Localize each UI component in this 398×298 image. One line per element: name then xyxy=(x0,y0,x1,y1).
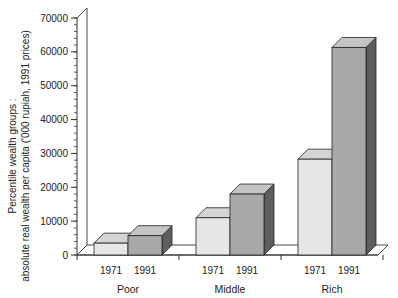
category-label: Rich xyxy=(321,283,342,295)
bar-front xyxy=(298,159,332,255)
bar-front xyxy=(332,47,366,255)
series-year-label: 1991 xyxy=(236,265,259,276)
y-tick-label: 40000 xyxy=(40,114,68,125)
bar xyxy=(128,226,172,255)
series-year-label: 1971 xyxy=(202,265,225,276)
bar xyxy=(230,184,274,255)
bar-group xyxy=(94,37,376,255)
y-axis-title: Percentile wealth groups : absolute real… xyxy=(7,30,31,282)
chart-canvas: 010000200003000040000500006000070000 197… xyxy=(0,0,398,298)
bar-side xyxy=(366,37,376,255)
category-label: Middle xyxy=(215,283,246,295)
wealth-bar-chart: 010000200003000040000500006000070000 197… xyxy=(0,0,398,298)
y-tick-label: 30000 xyxy=(40,148,68,159)
bar-front xyxy=(128,236,162,255)
bar-front xyxy=(230,194,264,255)
x-axis-labels: 19711991Poor19711991Middle19711991Rich xyxy=(100,265,361,295)
y-tick-label: 0 xyxy=(62,250,68,261)
bar-front xyxy=(94,243,128,255)
series-year-label: 1991 xyxy=(338,265,361,276)
bar xyxy=(332,37,376,255)
y-tick-label: 10000 xyxy=(40,216,68,227)
bar-side xyxy=(264,184,274,255)
y-tick-label: 60000 xyxy=(40,46,68,57)
y-tick-label: 50000 xyxy=(40,80,68,91)
y-axis-title-line1: Percentile wealth groups : xyxy=(7,98,18,213)
category-label: Poor xyxy=(117,283,140,295)
y-axis-title-line2: absolute real wealth per capita ('000 ru… xyxy=(20,30,31,282)
y-tick-label: 20000 xyxy=(40,182,68,193)
series-year-label: 1971 xyxy=(304,265,327,276)
series-year-label: 1971 xyxy=(100,265,123,276)
y-tick-label: 70000 xyxy=(40,13,68,24)
bar-front xyxy=(196,218,230,255)
top-depth-edge xyxy=(77,8,87,18)
series-year-label: 1991 xyxy=(134,265,157,276)
